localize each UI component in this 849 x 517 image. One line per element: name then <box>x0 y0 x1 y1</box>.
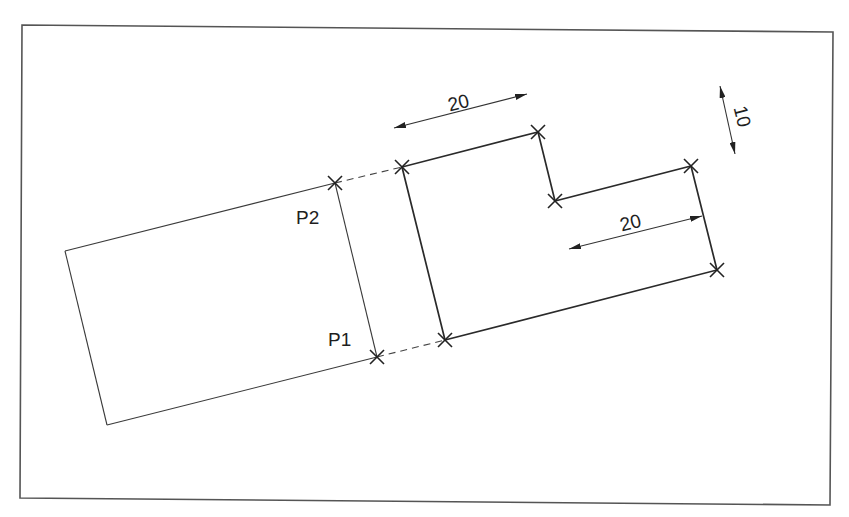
dimension-step-10: 10 <box>720 86 755 154</box>
shape-left-edge <box>65 251 107 425</box>
diagram-canvas: P2 P1 20 20 10 <box>0 0 849 517</box>
p1-label: P1 <box>328 329 351 350</box>
stretched-shape <box>402 132 717 340</box>
vertex-marker-icon <box>395 160 409 174</box>
stretch-extension <box>335 167 445 357</box>
dimension-label-step: 10 <box>730 104 755 130</box>
top-extension-dashed <box>335 167 402 183</box>
original-shape <box>65 183 377 425</box>
vertex-marker-icon <box>710 263 724 277</box>
vertex-marker-icon <box>548 194 562 208</box>
vertex-marker-icon <box>531 125 545 139</box>
shape-bottom-edge <box>107 357 377 425</box>
dimension-right-20: 20 <box>569 210 702 249</box>
shape-top-edge <box>65 183 335 251</box>
bottom-extension-dashed <box>377 340 445 357</box>
dimension-label-top: 20 <box>446 90 472 115</box>
stepped-outline <box>402 132 717 340</box>
point-markers <box>328 125 724 364</box>
p2-marker-icon <box>328 176 342 190</box>
vertex-marker-icon <box>438 333 452 347</box>
p1-marker-icon <box>370 350 384 364</box>
vertex-marker-icon <box>684 159 698 173</box>
dimension-top-20: 20 <box>394 90 527 128</box>
p2-label: P2 <box>296 207 319 228</box>
